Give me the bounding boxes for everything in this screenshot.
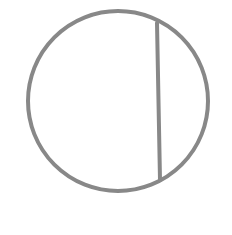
diagram-canvas [0,0,232,235]
circle-outline [28,11,208,191]
vertical-chord-line [157,23,160,180]
